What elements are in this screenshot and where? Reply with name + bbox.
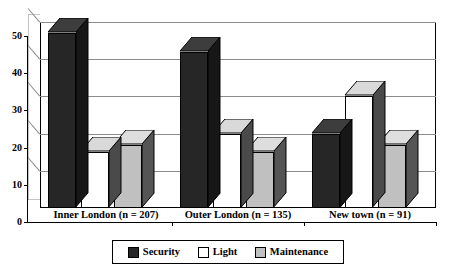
bar-front-face bbox=[180, 52, 208, 208]
bar-chart: 01020304050 Inner London (n = 207)Outer … bbox=[0, 0, 452, 276]
legend-swatch-light bbox=[198, 247, 209, 258]
legend-item: Maintenance bbox=[255, 247, 328, 258]
legend-swatch-maintenance bbox=[255, 247, 266, 258]
bar-side-face bbox=[76, 18, 89, 208]
bar-top-face bbox=[312, 119, 353, 134]
bar-side-face bbox=[373, 81, 386, 208]
x-category-label: New town (n = 91) bbox=[300, 210, 440, 221]
x-tick-mark bbox=[172, 222, 173, 226]
bar-top-face bbox=[48, 18, 89, 33]
legend-label-light: Light bbox=[213, 247, 238, 258]
bar-side-face bbox=[208, 37, 221, 208]
x-category-label: Outer London (n = 135) bbox=[168, 210, 308, 221]
x-category-label: Inner London (n = 207) bbox=[36, 210, 176, 221]
x-tick-mark bbox=[436, 222, 437, 226]
bar-top-face bbox=[345, 81, 386, 96]
x-tick-mark bbox=[304, 222, 305, 226]
legend-swatch-security bbox=[128, 247, 139, 258]
bar-top-face bbox=[180, 37, 221, 52]
bar-front-face bbox=[312, 134, 340, 208]
bar-security-0 bbox=[48, 33, 76, 208]
bar-security-1 bbox=[180, 52, 208, 208]
chart-legend: Security Light Maintenance bbox=[112, 240, 344, 264]
legend-label-security: Security bbox=[143, 247, 180, 258]
bar-security-2 bbox=[312, 134, 340, 208]
legend-item: Light bbox=[198, 247, 238, 258]
legend-item: Security bbox=[128, 247, 180, 258]
legend-label-maintenance: Maintenance bbox=[270, 247, 328, 258]
bar-front-face bbox=[48, 33, 76, 208]
